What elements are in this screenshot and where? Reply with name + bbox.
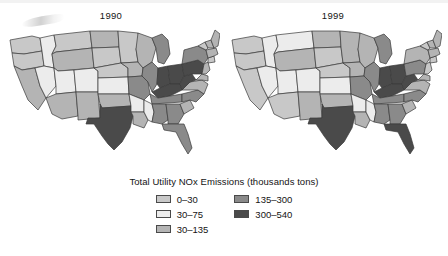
legend-swatch-icon	[156, 225, 171, 233]
state-ks	[320, 77, 351, 94]
legend-item: 300–540	[234, 208, 292, 220]
legend-item-label: 135–300	[255, 194, 292, 205]
legend-title: Total Utility NOx Emissions (thousands t…	[0, 176, 448, 187]
us-choropleth-map-1999	[224, 24, 442, 170]
state-al	[152, 104, 168, 124]
state-ok	[98, 94, 131, 108]
legend-item-label: 30–135	[177, 224, 209, 235]
legend-swatch-icon	[234, 195, 249, 203]
legend-columns: 0–30 30–75 30–135 135–300 300	[0, 193, 448, 235]
state-ut	[54, 68, 76, 94]
figure-nox-emissions-maps: 1990	[0, 0, 448, 256]
state-wa	[10, 36, 42, 54]
state-nm	[76, 92, 100, 120]
legend-swatch-icon	[156, 210, 171, 218]
state-fl	[162, 124, 192, 154]
state-md	[196, 74, 208, 81]
map-title-1999: 1999	[224, 10, 442, 21]
state-ks	[98, 77, 129, 94]
state-wy	[274, 48, 316, 71]
state-co	[296, 68, 320, 92]
map-panel-1990: 1990	[2, 4, 220, 172]
legend-column-right: 135–300 300–540	[234, 193, 292, 235]
state-nd	[312, 31, 341, 48]
state-ma	[206, 48, 218, 58]
state-az	[268, 92, 300, 119]
legend-item: 0–30	[156, 193, 209, 205]
map-panel-1999: 1999	[224, 4, 442, 172]
state-nd	[90, 31, 119, 48]
legend-column-left: 0–30 30–75 30–135	[156, 193, 209, 235]
legend-item-label: 0–30	[177, 194, 198, 205]
legend-item: 135–300	[234, 193, 292, 205]
state-ma	[428, 48, 440, 58]
us-choropleth-map-1990	[2, 24, 220, 170]
map-title-1990: 1990	[2, 10, 220, 21]
legend-swatch-icon	[156, 195, 171, 203]
legend-item-label: 300–540	[255, 209, 292, 220]
legend-swatch-icon	[234, 210, 249, 218]
state-shapes-1990	[10, 30, 220, 154]
state-shapes-1999	[232, 30, 442, 154]
state-fl	[384, 124, 414, 154]
state-ut	[276, 68, 298, 94]
scan-edge-artifact	[0, 0, 448, 3]
state-ok	[320, 94, 353, 108]
state-md	[418, 74, 430, 81]
legend-item: 30–135	[156, 223, 209, 235]
state-nm	[298, 92, 322, 120]
legend: Total Utility NOx Emissions (thousands t…	[0, 176, 448, 235]
state-wa	[232, 36, 264, 54]
state-al	[374, 104, 390, 124]
legend-item: 30–75	[156, 208, 209, 220]
state-az	[46, 92, 78, 119]
state-co	[74, 68, 98, 92]
state-wy	[52, 48, 94, 71]
legend-item-label: 30–75	[177, 209, 203, 220]
